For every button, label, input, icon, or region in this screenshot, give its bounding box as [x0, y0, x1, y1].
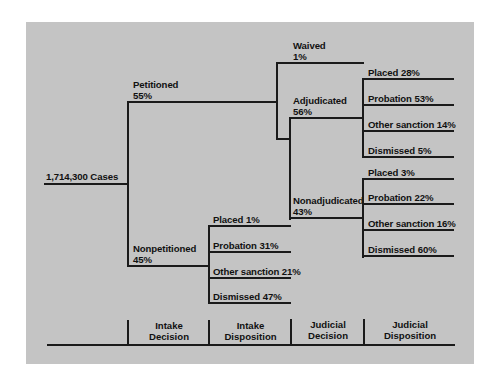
nonpetitioned-probation-line [208, 251, 291, 253]
waived-pct: 1% [293, 51, 307, 62]
nonadjudicated-probation-line [362, 203, 454, 205]
nonadjudicated-line [289, 217, 364, 219]
adjudicated-label: Adjudicated [293, 95, 347, 106]
petitioned-line [127, 101, 278, 103]
waived-label: Waived [293, 40, 326, 51]
stage-line1: Judicial [292, 319, 364, 330]
adjudicated-disposition-split [362, 78, 364, 158]
nonadjudicated-dismissed-label: Dismissed 60% [368, 244, 437, 255]
nonpetitioned-placed-label: Placed 1% [213, 214, 260, 225]
waived-line [276, 62, 364, 64]
stage-line1: Intake [129, 320, 209, 331]
nonpetitioned-dismissed-label: Dismissed 47% [213, 291, 282, 302]
intake-split-line [127, 101, 129, 267]
root-cases-label: 1,714,300 Cases [46, 171, 118, 182]
nonpetitioned-other-line [208, 277, 291, 279]
nonpetitioned-disposition-split [208, 225, 210, 304]
nonadjudicated-disposition-split [362, 178, 364, 258]
petitioned-split-line [276, 62, 278, 140]
nonadjudicated-other-line [362, 229, 454, 231]
stage-intake-decision: Intake Decision [129, 320, 209, 342]
adjudication-split-line [289, 117, 291, 220]
nonadjudicated-placed-line [362, 178, 454, 180]
nonadjudicated-label: Nonadjudicated [293, 195, 364, 206]
stage-line2: Decision [129, 331, 209, 342]
stage-intake-disposition: Intake Disposition [210, 320, 291, 342]
adjudicated-line [289, 117, 364, 119]
nonadjudicated-other-label: Other sanction 16% [368, 218, 456, 229]
adjudicated-other-line [362, 130, 454, 132]
petitioned-pct: 55% [133, 90, 152, 101]
nonadjudicated-dismissed-line [362, 255, 454, 257]
adjudicated-probation-label: Probation 53% [368, 93, 433, 104]
adjudicated-placed-label: Placed 28% [368, 67, 420, 78]
nonadjudicated-probation-label: Probation 22% [368, 192, 433, 203]
root-line [44, 183, 129, 185]
nonpetitioned-dismissed-line [208, 302, 291, 304]
adjudicated-dismissed-label: Dismissed 5% [368, 145, 431, 156]
nonpetitioned-probation-label: Probation 31% [213, 240, 278, 251]
stage-axis-line [47, 344, 455, 346]
nonadjudicated-placed-label: Placed 3% [368, 167, 415, 178]
adjudicated-probation-line [362, 104, 454, 106]
adjudicated-pct: 56% [293, 106, 312, 117]
nonpetitioned-pct: 45% [133, 254, 152, 265]
nonpetitioned-placed-line [208, 225, 291, 227]
petitioned-label: Petitioned [133, 79, 178, 90]
nonadjudicated-pct: 43% [293, 206, 312, 217]
nonpetitioned-other-label: Other sanction 21% [213, 266, 301, 277]
adjudicated-dismissed-line [362, 156, 454, 158]
stage-judicial-disposition: Judicial Disposition [365, 319, 455, 341]
stage-line1: Judicial [365, 319, 455, 330]
nonpetitioned-line [127, 265, 210, 267]
stage-line1: Intake [210, 320, 291, 331]
adjudicated-placed-line [362, 78, 454, 80]
stage-judicial-decision: Judicial Decision [292, 319, 364, 341]
stage-line2: Disposition [365, 330, 455, 341]
nonpetitioned-label: Nonpetitioned [133, 243, 196, 254]
stage-line2: Disposition [210, 331, 291, 342]
stage-line2: Decision [292, 330, 364, 341]
adjudicated-other-label: Other sanction 14% [368, 119, 456, 130]
